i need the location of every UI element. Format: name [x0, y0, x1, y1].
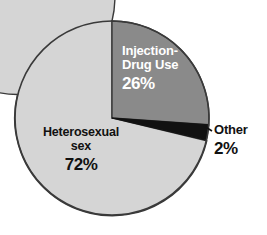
slice-label-other: Other 2%: [214, 123, 248, 158]
slice-label-heterosexual-line2: sex: [35, 140, 127, 154]
slice-label-heterosexual-sex: Heterosexual sex 72%: [35, 126, 127, 174]
slice-value-heterosexual-sex: 72%: [35, 156, 127, 174]
slice-label-other-line1: Other: [214, 123, 248, 137]
pie-chart: Injection- Drug Use 26% Heterosexual sex…: [0, 0, 267, 235]
slice-label-heterosexual-line1: Heterosexual: [35, 126, 127, 140]
slice-value-other: 2%: [214, 140, 248, 158]
slice-value-injection-drug-use: 26%: [122, 75, 178, 93]
slice-label-injection-line1: Injection-: [122, 44, 178, 58]
pie-chart-graphic: [0, 0, 267, 235]
slice-label-injection-line2: Drug Use: [122, 58, 178, 72]
slice-label-injection-drug-use: Injection- Drug Use 26%: [122, 44, 178, 93]
